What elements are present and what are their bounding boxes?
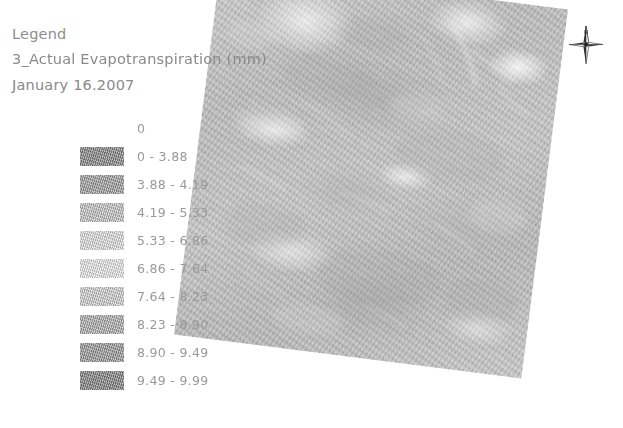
legend-swatch	[80, 147, 124, 166]
legend-swatch	[80, 203, 124, 222]
legend-swatch	[80, 119, 124, 138]
legend-item-label: 7.64 - 8.23	[137, 289, 208, 304]
legend-layer-title: 3_Actual Evapotranspiration (mm)	[12, 51, 267, 67]
legend-class-list: 00 - 3.883.88 - 4.194.19 - 5.335.33 - 6.…	[80, 114, 208, 394]
legend-swatch	[80, 287, 124, 306]
compass-star-icon: N	[567, 24, 605, 66]
legend-item[interactable]: 3.88 - 4.19	[80, 170, 208, 198]
legend-item-label: 8.90 - 9.49	[137, 345, 208, 360]
legend-swatch	[80, 343, 124, 362]
legend-item[interactable]: 7.64 - 8.23	[80, 282, 208, 310]
legend-swatch	[80, 371, 124, 390]
legend-swatch	[80, 259, 124, 278]
legend-item[interactable]: 0	[80, 114, 208, 142]
legend-item-label: 5.33 - 6.86	[137, 233, 208, 248]
legend-item-label: 0	[137, 121, 145, 136]
north-arrow-label: N	[584, 29, 588, 35]
legend-item-label: 9.49 - 9.99	[137, 373, 208, 388]
legend-swatch	[80, 231, 124, 250]
legend-item[interactable]: 5.33 - 6.86	[80, 226, 208, 254]
legend-item[interactable]: 0 - 3.88	[80, 142, 208, 170]
legend-item[interactable]: 8.23 - 8.90	[80, 310, 208, 338]
legend-heading: Legend	[12, 26, 66, 42]
legend-item-label: 6.86 - 7.64	[137, 261, 208, 276]
legend-item[interactable]: 4.19 - 5.33	[80, 198, 208, 226]
legend-item-label: 8.23 - 8.90	[137, 317, 208, 332]
legend-item-label: 0 - 3.88	[137, 149, 188, 164]
legend-item[interactable]: 9.49 - 9.99	[80, 366, 208, 394]
north-arrow: N	[567, 24, 605, 66]
legend-swatch	[80, 315, 124, 334]
legend-item[interactable]: 6.86 - 7.64	[80, 254, 208, 282]
legend-date: January 16.2007	[12, 77, 135, 93]
legend-item[interactable]: 8.90 - 9.49	[80, 338, 208, 366]
legend-item-label: 4.19 - 5.33	[137, 205, 208, 220]
legend-swatch	[80, 175, 124, 194]
map-page: Legend 3_Actual Evapotranspiration (mm) …	[0, 0, 623, 428]
legend-item-label: 3.88 - 4.19	[137, 177, 208, 192]
